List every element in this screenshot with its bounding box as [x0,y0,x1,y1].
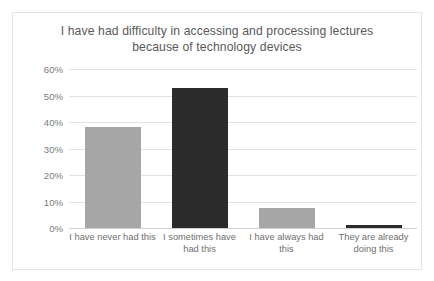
bar-slot [156,69,243,228]
bar[interactable] [172,88,228,228]
chart-title-line-1: I have had difficulty in accessing and p… [13,23,421,39]
x-axis-category-label: I sometimes have had this [156,232,243,255]
x-axis-category-label: I have never had this [69,232,156,244]
y-axis-tick-label: 20% [44,170,63,181]
bar-series [69,69,417,228]
bar-slot [330,69,417,228]
plot-area: 0%10%20%30%40%50%60% [69,69,417,228]
chart-container: I have had difficulty in accessing and p… [12,12,422,270]
x-axis-category-labels: I have never had thisI sometimes have ha… [69,232,417,266]
y-axis-tick-label: 50% [44,90,63,101]
bar[interactable] [259,208,315,228]
chart-title-line-2: because of technology devices [13,39,421,55]
x-axis-category-label: I have always had this [243,232,330,255]
y-axis-tick-label: 10% [44,196,63,207]
bar[interactable] [346,225,402,228]
y-axis-tick-label: 30% [44,143,63,154]
y-axis-tick-label: 0% [49,223,63,234]
x-axis-line [69,228,417,229]
x-axis-category-label: They are already doing this [330,232,417,255]
y-axis-tick-label: 40% [44,117,63,128]
bar[interactable] [85,127,141,228]
bar-slot [243,69,330,228]
y-axis-tick-label: 60% [44,64,63,75]
chart-title: I have had difficulty in accessing and p… [13,23,421,55]
bar-slot [69,69,156,228]
